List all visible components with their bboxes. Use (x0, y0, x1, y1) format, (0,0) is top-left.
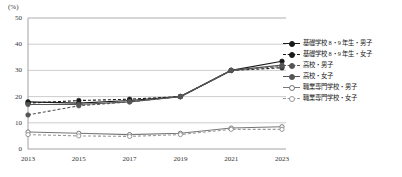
legend-item-1[interactable]: 基礎学校 8・9 年生・女子 (283, 49, 372, 60)
data-point (77, 134, 81, 138)
legend-label: 基礎学校 8・9 年生・男子 (303, 40, 372, 46)
data-point (77, 102, 82, 107)
legend-marker-icon (283, 39, 300, 48)
legend-label: 高校・女子 (303, 73, 333, 79)
axis-frame (28, 18, 286, 149)
data-point (229, 127, 233, 131)
data-point (229, 68, 234, 73)
data-point (178, 132, 182, 136)
chart-container: (%) 01020304050 201320152017201920212023… (0, 0, 402, 177)
series-line-2 (28, 66, 282, 114)
legend-item-0[interactable]: 基礎学校 8・9 年生・男子 (283, 38, 372, 49)
chart-legend: 基礎学校 8・9 年生・男子基礎学校 8・9 年生・女子高校・男子高校・女子職業… (283, 38, 372, 104)
legend-item-2[interactable]: 高校・男子 (283, 60, 372, 71)
data-point (128, 134, 132, 138)
legend-label: 職業専門学校・女子 (303, 95, 357, 101)
data-point (127, 100, 132, 105)
legend-item-5[interactable]: 職業専門学校・女子 (283, 93, 372, 104)
legend-label: 基礎学校 8・9 年生・女子 (303, 51, 372, 57)
data-point (178, 94, 183, 99)
legend-marker-icon (283, 61, 300, 70)
legend-label: 高校・男子 (303, 62, 333, 68)
legend-marker-icon (283, 50, 300, 59)
series-line-1 (28, 68, 282, 103)
legend-item-3[interactable]: 高校・女子 (283, 71, 372, 82)
legend-label: 職業専門学校・男子 (303, 84, 357, 90)
data-point (280, 127, 284, 131)
data-point (26, 132, 30, 136)
series-line-4 (28, 127, 282, 135)
legend-marker-icon (283, 83, 300, 92)
data-point (26, 113, 31, 118)
data-point (26, 102, 31, 107)
legend-item-4[interactable]: 職業専門学校・男子 (283, 82, 372, 93)
legend-marker-icon (283, 72, 300, 81)
legend-marker-icon (283, 94, 300, 103)
